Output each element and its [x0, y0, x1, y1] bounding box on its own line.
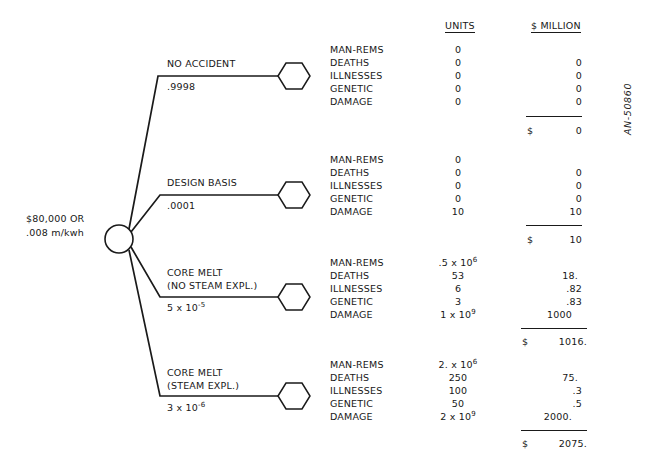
units-value: 53 [428, 271, 488, 281]
row-label: ILLNESSES [330, 386, 382, 396]
money-value: .5 [526, 399, 582, 409]
row-label: MAN-REMS [330, 155, 384, 165]
branch-1-probability: .9998 [167, 82, 195, 92]
row-label: MAN-REMS [330, 258, 384, 268]
units-value: 100 [428, 386, 488, 396]
branch-4-probability: 3 x 10-6 [167, 403, 205, 413]
money-value: 0 [526, 97, 582, 107]
terminal-hexagon-4 [278, 383, 310, 409]
branch-2-total: 10 [526, 235, 582, 245]
figure-reference-code: AN-50860 [622, 83, 633, 135]
units-value: 50 [428, 399, 488, 409]
branch-line-2 [131, 195, 278, 232]
units-value: 0 [428, 168, 488, 178]
money-value: 0 [526, 84, 582, 94]
money-value: 0 [526, 71, 582, 81]
branch-3-name-line2: (NO STEAM EXPL.) [167, 281, 257, 291]
terminal-hexagon-1 [278, 63, 310, 89]
units-value: 0 [428, 71, 488, 81]
units-value: 0 [428, 155, 488, 165]
row-label: DAMAGE [330, 207, 373, 217]
branch-3-name: CORE MELT [167, 268, 223, 278]
money-value: .83 [526, 297, 582, 307]
row-label: DEATHS [330, 58, 369, 68]
branch-1-name: NO ACCIDENT [167, 59, 235, 69]
money-value: 0 [526, 181, 582, 191]
terminal-hexagon-2 [278, 182, 310, 208]
row-label: MAN-REMS [330, 360, 384, 370]
total-rule [526, 225, 582, 226]
row-label: MAN-REMS [330, 45, 384, 55]
money-value: 0 [526, 58, 582, 68]
units-value: 2. x 106 [428, 360, 488, 370]
units-value: 2 x 109 [428, 412, 488, 422]
row-label: DEATHS [330, 373, 369, 383]
total-rule [521, 430, 587, 431]
root-label-line1: $80,000 OR [26, 214, 84, 224]
money-column-header: $ MILLION [531, 21, 581, 33]
row-label: GENETIC [330, 399, 373, 409]
row-label: GENETIC [330, 84, 373, 94]
row-label: ILLNESSES [330, 284, 382, 294]
row-label: GENETIC [330, 194, 373, 204]
row-label: DAMAGE [330, 412, 373, 422]
units-value: 3 [428, 297, 488, 307]
branch-4-name: CORE MELT [167, 368, 223, 378]
units-value: 0 [428, 194, 488, 204]
terminal-hexagon-3 [278, 284, 310, 310]
branch-3-probability: 5 x 10-5 [167, 303, 205, 313]
branch-4-total: 2075. [531, 439, 587, 449]
units-value: 0 [428, 45, 488, 55]
money-value: 0 [526, 194, 582, 204]
branch-2-name: DESIGN BASIS [167, 178, 237, 188]
money-value: .3 [526, 386, 582, 396]
root-node-circle [105, 225, 133, 253]
units-value: 6 [428, 284, 488, 294]
branch-3-total: 1016. [531, 337, 587, 347]
units-column-header: UNITS [445, 21, 475, 33]
branch-2-probability: .0001 [167, 201, 195, 211]
units-value: 0 [428, 84, 488, 94]
money-value: 18. [522, 271, 578, 281]
root-label-line2: .008 m/kwh [26, 228, 84, 238]
row-label: ILLNESSES [330, 71, 382, 81]
units-value: 0 [428, 58, 488, 68]
row-label: DAMAGE [330, 310, 373, 320]
branch-4-name-line2: (STEAM EXPL.) [167, 381, 239, 391]
row-label: DEATHS [330, 168, 369, 178]
units-value: 1 x 109 [428, 310, 488, 320]
units-value: 0 [428, 181, 488, 191]
money-value: 1000 [516, 310, 572, 320]
money-value: 10 [526, 207, 582, 217]
money-value: .82 [526, 284, 582, 294]
total-rule [526, 116, 582, 117]
row-label: DAMAGE [330, 97, 373, 107]
money-value: 2000. [516, 412, 572, 422]
units-value: 10 [428, 207, 488, 217]
units-value: 0 [428, 97, 488, 107]
row-label: ILLNESSES [330, 181, 382, 191]
money-value: 0 [526, 168, 582, 178]
currency-symbol: $ [522, 439, 528, 449]
currency-symbol: $ [522, 337, 528, 347]
row-label: DEATHS [330, 271, 369, 281]
total-rule [521, 328, 587, 329]
branch-1-total: 0 [526, 126, 582, 136]
row-label: GENETIC [330, 297, 373, 307]
units-value: 250 [428, 373, 488, 383]
money-value: 75. [522, 373, 578, 383]
units-value: .5 x 106 [428, 258, 488, 268]
decision-tree-figure: $80,000 OR .008 m/kwh UNITS $ MILLION NO… [0, 0, 657, 463]
